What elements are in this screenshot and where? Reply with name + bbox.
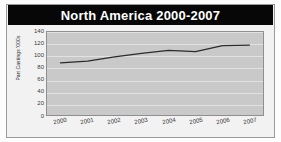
y-tick-label: 0 xyxy=(18,113,44,120)
y-tick-label: 60 xyxy=(18,76,44,83)
plot-area xyxy=(46,31,264,116)
y-tick-label: 40 xyxy=(18,88,44,95)
x-tick-label: 2004 xyxy=(153,115,184,127)
y-tick-label: 140 xyxy=(18,28,44,35)
x-tick-label: 2007 xyxy=(235,115,266,127)
series-line-part-castings xyxy=(61,45,250,63)
chart-body: Part Castings '000s 020406080100120140 2… xyxy=(8,25,273,136)
chart-title-bar: North America 2000-2007 xyxy=(8,5,273,25)
line-series-svg xyxy=(47,32,263,115)
y-tick-label: 80 xyxy=(18,64,44,71)
x-tick-label: 2003 xyxy=(126,115,157,127)
y-axis-tick-labels: 020406080100120140 xyxy=(14,25,44,122)
y-tick-label: 20 xyxy=(18,100,44,107)
y-tick-label: 100 xyxy=(18,52,44,59)
x-tick-label: 2001 xyxy=(72,115,103,127)
chart-title: North America 2000-2007 xyxy=(61,8,220,23)
chart-figure: North America 2000-2007 Part Castings '0… xyxy=(0,0,281,142)
y-tick-label: 120 xyxy=(18,40,44,47)
x-tick-label: 2005 xyxy=(181,115,212,127)
x-tick-label: 2000 xyxy=(44,115,75,127)
x-axis-tick-labels: 20002001200220032004200520062007 xyxy=(46,118,264,136)
